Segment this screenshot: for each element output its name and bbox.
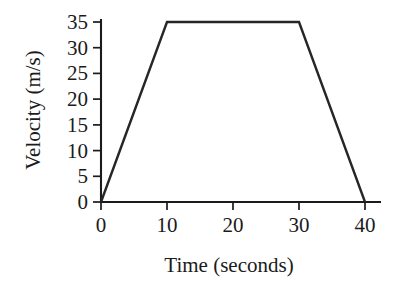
x-tick-label-30: 30 <box>289 213 310 237</box>
y-tick-label-35: 35 <box>67 10 88 34</box>
x-tick-label-20: 20 <box>223 213 244 237</box>
x-tick-label-0: 0 <box>96 213 107 237</box>
velocity-time-chart-figure: 0 5 10 15 20 25 30 35 0 10 20 30 40 Time… <box>0 0 406 287</box>
y-tick-label-10: 10 <box>67 139 88 163</box>
x-tick-label-40: 40 <box>355 213 376 237</box>
y-tick-label-30: 30 <box>67 36 88 60</box>
x-axis-title: Time (seconds) <box>164 253 293 277</box>
chart-canvas: 0 5 10 15 20 25 30 35 0 10 20 30 40 Time… <box>0 0 406 287</box>
y-tick-label-15: 15 <box>67 113 88 137</box>
y-tick-label-20: 20 <box>67 87 88 111</box>
y-tick-label-0: 0 <box>78 190 89 214</box>
x-tick-label-10: 10 <box>157 213 178 237</box>
y-tick-label-5: 5 <box>78 164 89 188</box>
y-tick-label-25: 25 <box>67 61 88 85</box>
chart-background <box>0 0 406 287</box>
y-axis-title: Velocity (m/s) <box>21 50 45 170</box>
